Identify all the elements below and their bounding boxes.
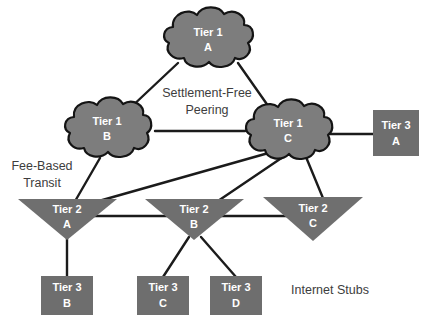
annotation-fee-based-transit: Fee-Based Transit	[11, 159, 72, 190]
link-tier2b-tier3c	[163, 237, 189, 277]
tier1-a-tier-label: Tier 1	[193, 26, 222, 38]
tier3-a-tier-label: Tier 3	[381, 119, 410, 131]
tier3-b-tier-label: Tier 3	[52, 281, 81, 293]
cloud-shape-tier1-c	[246, 99, 332, 159]
tier3-c-name-label: C	[159, 297, 167, 309]
cloud-shape-tier1-b	[65, 97, 151, 157]
settlement-free-peering-line2: Peering	[185, 103, 228, 117]
topology-canvas: Tier 1 A Tier 1 B Tier 1 C Tier 2 A Tier…	[0, 0, 431, 329]
node-tier1-b[interactable]: Tier 1 B	[65, 97, 151, 157]
tier3-d-name-label: D	[232, 297, 240, 309]
tier3-d-tier-label: Tier 3	[221, 281, 250, 293]
tier1-b-name-label: B	[103, 130, 111, 142]
fee-based-transit-line1: Fee-Based	[11, 159, 72, 173]
link-tier1b-tier2a	[74, 158, 100, 203]
node-tier3-c[interactable]: Tier 3 C	[137, 276, 189, 315]
link-tier1c-tier2c	[306, 157, 325, 203]
tier3-b-name-label: B	[63, 297, 71, 309]
annotation-internet-stubs: Internet Stubs	[291, 283, 369, 297]
tier2-b-name-label: B	[190, 218, 198, 230]
tier3-a-name-label: A	[392, 135, 400, 147]
node-tier2-b[interactable]: Tier 2 B	[145, 199, 244, 240]
tier1-b-tier-label: Tier 1	[92, 115, 121, 127]
node-tier3-d[interactable]: Tier 3 D	[210, 276, 262, 315]
tier2-b-tier-label: Tier 2	[179, 203, 208, 215]
tier3-c-tier-label: Tier 3	[148, 281, 177, 293]
internet-stubs-label: Internet Stubs	[291, 283, 369, 297]
tier2-c-tier-label: Tier 2	[298, 202, 327, 214]
box-shape-tier3-a	[373, 110, 419, 156]
tier2-a-tier-label: Tier 2	[52, 203, 81, 215]
node-tier3-a[interactable]: Tier 3 A	[373, 110, 419, 156]
node-tier1-c[interactable]: Tier 1 C	[246, 99, 332, 159]
node-tier2-a[interactable]: Tier 2 A	[18, 199, 117, 240]
link-tier2b-tier3d	[201, 237, 236, 277]
tier2-a-name-label: A	[63, 218, 71, 230]
link-tier1c-tier2b	[215, 157, 283, 203]
tier1-c-name-label: C	[284, 132, 292, 144]
annotation-settlement-free-peering: Settlement-Free Peering	[162, 86, 252, 117]
node-tier3-b[interactable]: Tier 3 B	[41, 276, 93, 315]
node-tier1-a[interactable]: Tier 1 A	[164, 7, 253, 67]
tier1-c-tier-label: Tier 1	[273, 117, 302, 129]
tier1-a-name-label: A	[204, 41, 212, 53]
fee-based-transit-line2: Transit	[23, 176, 61, 190]
settlement-free-peering-line1: Settlement-Free	[162, 86, 252, 100]
network-topology-diagram: Tier 1 A Tier 1 B Tier 1 C Tier 2 A Tier…	[0, 0, 431, 329]
node-tier2-c[interactable]: Tier 2 C	[263, 197, 363, 241]
tier2-c-name-label: C	[309, 217, 317, 229]
